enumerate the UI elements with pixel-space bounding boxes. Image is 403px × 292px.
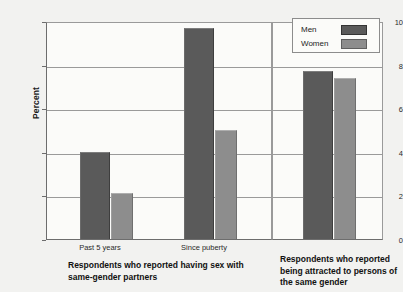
bar-chart: Percent 10 8 6 4 2 0 Past 5 years Since … [0,0,403,292]
bar-men-since-puberty [184,28,214,240]
y-tick-label-6: 6 [383,105,403,114]
gridline-6 [47,110,271,111]
legend-label-women: Women [301,39,328,48]
y-axis-title: Percent [31,73,41,133]
caption-left-group: Respondents who reported having sex with… [68,260,258,283]
y-tick-label-10: 10 [383,18,403,27]
caption-right-group: Respondents who reported being attracted… [280,254,398,289]
bar-women-since-puberty [215,130,237,239]
bar-women-attracted [334,78,356,239]
bar-men-past-5-years [80,152,110,239]
y-tick-label-0: 0 [383,236,403,245]
legend-row-men: Men [293,23,379,36]
legend-swatch-women-icon [341,39,367,49]
gridline-8 [47,67,271,68]
legend-row-women: Women [293,37,379,50]
bar-men-attracted [303,71,333,239]
gridline-8-right [273,67,382,68]
bar-women-past-5-years [111,193,133,239]
x-tick-label-since-puberty: Since puberty [168,243,240,252]
plot-area-right [272,22,383,240]
y-tick-mark-0 [42,240,46,241]
legend-label-men: Men [301,25,317,34]
legend-swatch-men-icon [341,25,367,35]
y-tick-label-2: 2 [383,192,403,201]
y-tick-label-4: 4 [383,148,403,157]
x-tick-label-past-5-years: Past 5 years [64,243,136,252]
legend: Men Women [292,18,380,53]
plot-area-left [46,22,272,240]
y-tick-label-8: 8 [383,61,403,70]
